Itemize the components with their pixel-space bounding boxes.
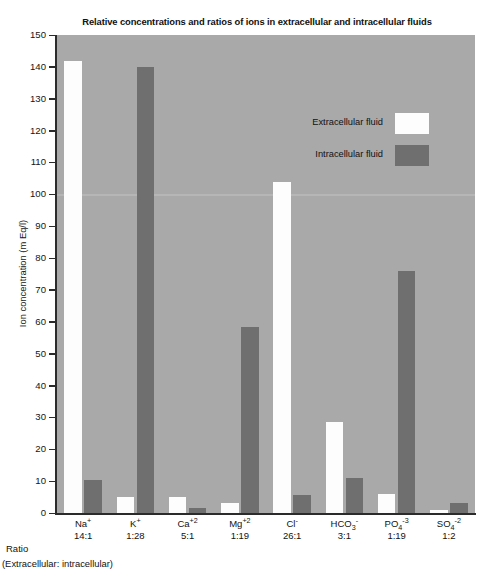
y-axis-tick bbox=[49, 321, 56, 323]
y-axis-tick bbox=[49, 289, 56, 291]
bar-intracellular-PO4-3 bbox=[398, 271, 416, 513]
ion-label: Na+ bbox=[53, 518, 113, 529]
y-axis-tick bbox=[49, 449, 56, 451]
y-axis-tick bbox=[49, 417, 56, 419]
y-axis-tick bbox=[49, 162, 56, 164]
y-axis-tick-label: 0 bbox=[0, 508, 46, 518]
bar-extracellular-Cl- bbox=[273, 182, 291, 513]
legend-swatch-extracellular bbox=[395, 113, 429, 134]
y-axis-tick bbox=[49, 35, 56, 37]
y-axis-tick-value: 20 bbox=[0, 444, 46, 454]
legend-item-intracellular: Intracellular fluid bbox=[243, 145, 443, 167]
y-axis-tick bbox=[49, 130, 56, 132]
y-axis-tick bbox=[49, 66, 56, 68]
y-axis-tick-label: 10 bbox=[0, 476, 46, 486]
y-axis-tick-value: 10 bbox=[0, 476, 46, 486]
y-axis-tick-value: 0 bbox=[0, 508, 46, 518]
y-axis-tick bbox=[49, 258, 56, 260]
y-axis-tick bbox=[49, 194, 56, 196]
ion-ratio: 26:1 bbox=[262, 529, 322, 542]
bar-extracellular-HCO3- bbox=[326, 422, 344, 513]
bar-extracellular-PO4-3 bbox=[378, 494, 396, 513]
y-axis-tick bbox=[49, 353, 56, 355]
ion-label: Ca+2 bbox=[158, 518, 218, 529]
ion-label: Cl- bbox=[262, 518, 322, 529]
ion-label: HCO3- bbox=[314, 518, 374, 529]
legend-label-intracellular: Intracellular fluid bbox=[243, 149, 383, 159]
legend-item-extracellular: Extracellular fluid bbox=[243, 113, 443, 135]
bar-extracellular-K+ bbox=[117, 497, 135, 513]
y-axis-tick bbox=[49, 98, 56, 100]
chart-title: Relative concentrations and ratios of io… bbox=[38, 16, 476, 27]
bar-extracellular-Na+ bbox=[64, 61, 82, 514]
bar-intracellular-SO4-2 bbox=[450, 503, 468, 513]
ion-ratio: 1:19 bbox=[367, 529, 427, 542]
y-axis-tick-label: 150 bbox=[0, 30, 46, 40]
y-axis-tick-value: 120 bbox=[0, 126, 46, 136]
ion-ratio: 1:28 bbox=[105, 529, 165, 542]
x-axis-category-Na+: Na+14:1 bbox=[53, 518, 113, 542]
legend-label-extracellular: Extracellular fluid bbox=[243, 117, 383, 127]
y-axis-tick-label: 130 bbox=[0, 94, 46, 104]
ion-label: K+ bbox=[105, 518, 165, 529]
bar-intracellular-Cl- bbox=[293, 495, 311, 513]
chart-figure: Relative concentrations and ratios of io… bbox=[0, 0, 480, 579]
x-axis-category-Ca+2: Ca+25:1 bbox=[158, 518, 218, 542]
x-axis-category-Mg+2: Mg+21:19 bbox=[210, 518, 270, 542]
ion-ratio: 1:2 bbox=[419, 529, 479, 542]
y-axis-tick-value: 150 bbox=[0, 30, 46, 40]
y-axis-tick-value: 130 bbox=[0, 94, 46, 104]
y-axis-tick-value: 140 bbox=[0, 62, 46, 72]
ion-label: SO4-2 bbox=[419, 518, 479, 529]
bar-intracellular-Na+ bbox=[84, 480, 102, 513]
y-axis-tick bbox=[49, 513, 56, 515]
bar-intracellular-Mg+2 bbox=[241, 327, 259, 513]
ion-ratio: 3:1 bbox=[314, 529, 374, 542]
y-axis-tick-value: 30 bbox=[0, 412, 46, 422]
legend-swatch-intracellular bbox=[395, 145, 429, 166]
x-axis-category-SO4-2: SO4-21:2 bbox=[419, 518, 479, 542]
chart-legend: Extracellular fluidIntracellular fluid bbox=[243, 113, 443, 177]
ion-ratio: 1:19 bbox=[210, 529, 270, 542]
ratio-row-label: Ratio bbox=[6, 543, 28, 554]
bar-extracellular-Ca+2 bbox=[169, 497, 187, 513]
y-axis-tick bbox=[49, 481, 56, 483]
x-axis-category-HCO3-: HCO3-3:1 bbox=[314, 518, 374, 542]
ion-ratio: 5:1 bbox=[158, 529, 218, 542]
y-axis-tick bbox=[49, 385, 56, 387]
x-axis-category-Cl-: Cl-26:1 bbox=[262, 518, 322, 542]
y-axis-tick bbox=[49, 226, 56, 228]
y-axis-line bbox=[55, 35, 57, 515]
bar-extracellular-Mg+2 bbox=[221, 503, 239, 513]
bar-intracellular-HCO3- bbox=[346, 478, 364, 513]
ion-label: Mg+2 bbox=[210, 518, 270, 529]
bar-intracellular-K+ bbox=[137, 67, 155, 513]
plot-shading-band bbox=[57, 194, 475, 196]
plot-area: Extracellular fluidIntracellular fluid bbox=[57, 35, 475, 513]
x-axis-category-PO4-3: PO4-31:19 bbox=[367, 518, 427, 542]
ratio-row-sublabel: (Extracellular: intracellular) bbox=[2, 558, 113, 569]
y-axis-title: Ion concentration (m Eq/l) bbox=[17, 164, 28, 384]
ion-label: PO4-3 bbox=[367, 518, 427, 529]
x-axis-category-K+: K+1:28 bbox=[105, 518, 165, 542]
ion-ratio: 14:1 bbox=[53, 529, 113, 542]
y-axis-tick-label: 120 bbox=[0, 126, 46, 136]
y-axis-tick-label: 20 bbox=[0, 444, 46, 454]
y-axis-tick-label: 140 bbox=[0, 62, 46, 72]
y-axis-tick-label: 30 bbox=[0, 412, 46, 422]
x-axis-line bbox=[55, 513, 476, 515]
